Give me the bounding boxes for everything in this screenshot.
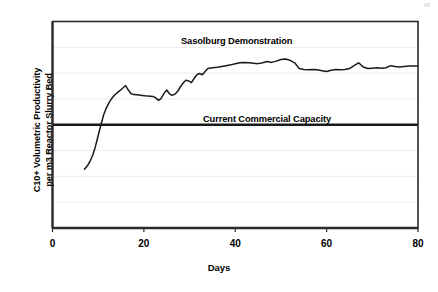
x-tick-label-0: 0 bbox=[50, 238, 56, 249]
current-commercial-capacity-label: Current Commercial Capacity bbox=[203, 114, 331, 124]
chart-container: C10+ Volumetric Productivity per m3 Reac… bbox=[0, 0, 438, 292]
x-axis-title: Days bbox=[0, 262, 438, 273]
x-tick-label-2: 40 bbox=[230, 238, 241, 249]
corner-artifact bbox=[424, 3, 430, 7]
x-tick-label-4: 80 bbox=[412, 238, 423, 249]
x-tick-label-1: 20 bbox=[138, 238, 149, 249]
sasolburg-demonstration-label: Sasolburg Demonstration bbox=[181, 36, 292, 46]
x-tick-label-3: 60 bbox=[321, 238, 332, 249]
